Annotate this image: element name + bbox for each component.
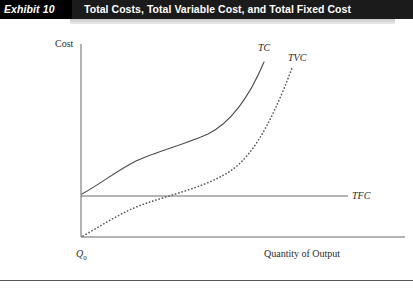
tc-curve-label: TC bbox=[258, 42, 270, 53]
cost-curves-figure: Cost Quantity of Output Q0 TC TVC TFC bbox=[0, 24, 413, 262]
exhibit-title-block: Total Costs, Total Variable Cost, and To… bbox=[72, 0, 413, 19]
x-axis-label: Quantity of Output bbox=[264, 248, 340, 259]
exhibit-number-label: Exhibit 10 bbox=[4, 3, 55, 15]
exhibit-number-block: Exhibit 10 bbox=[0, 0, 72, 19]
footer-divider bbox=[0, 280, 413, 281]
origin-label: Q0 bbox=[76, 248, 87, 262]
exhibit-header-bar: Exhibit 10 Total Costs, Total Variable C… bbox=[0, 0, 413, 19]
tfc-curve-label: TFC bbox=[352, 190, 370, 201]
cost-curves-plot bbox=[0, 24, 413, 262]
origin-subscript: 0 bbox=[83, 254, 87, 262]
tvc-curve bbox=[83, 68, 292, 236]
exhibit-title-text: Total Costs, Total Variable Cost, and To… bbox=[84, 3, 351, 15]
tvc-curve-label: TVC bbox=[288, 52, 306, 63]
tc-curve bbox=[82, 62, 264, 194]
y-axis-label: Cost bbox=[55, 38, 73, 49]
